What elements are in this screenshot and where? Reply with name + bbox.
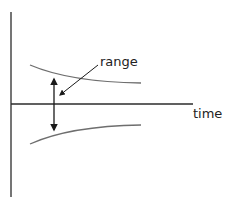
lower-bound-curve xyxy=(30,125,141,144)
range-diagram: range time xyxy=(0,0,226,203)
range-label: range xyxy=(100,54,138,69)
time-label: time xyxy=(193,106,222,121)
